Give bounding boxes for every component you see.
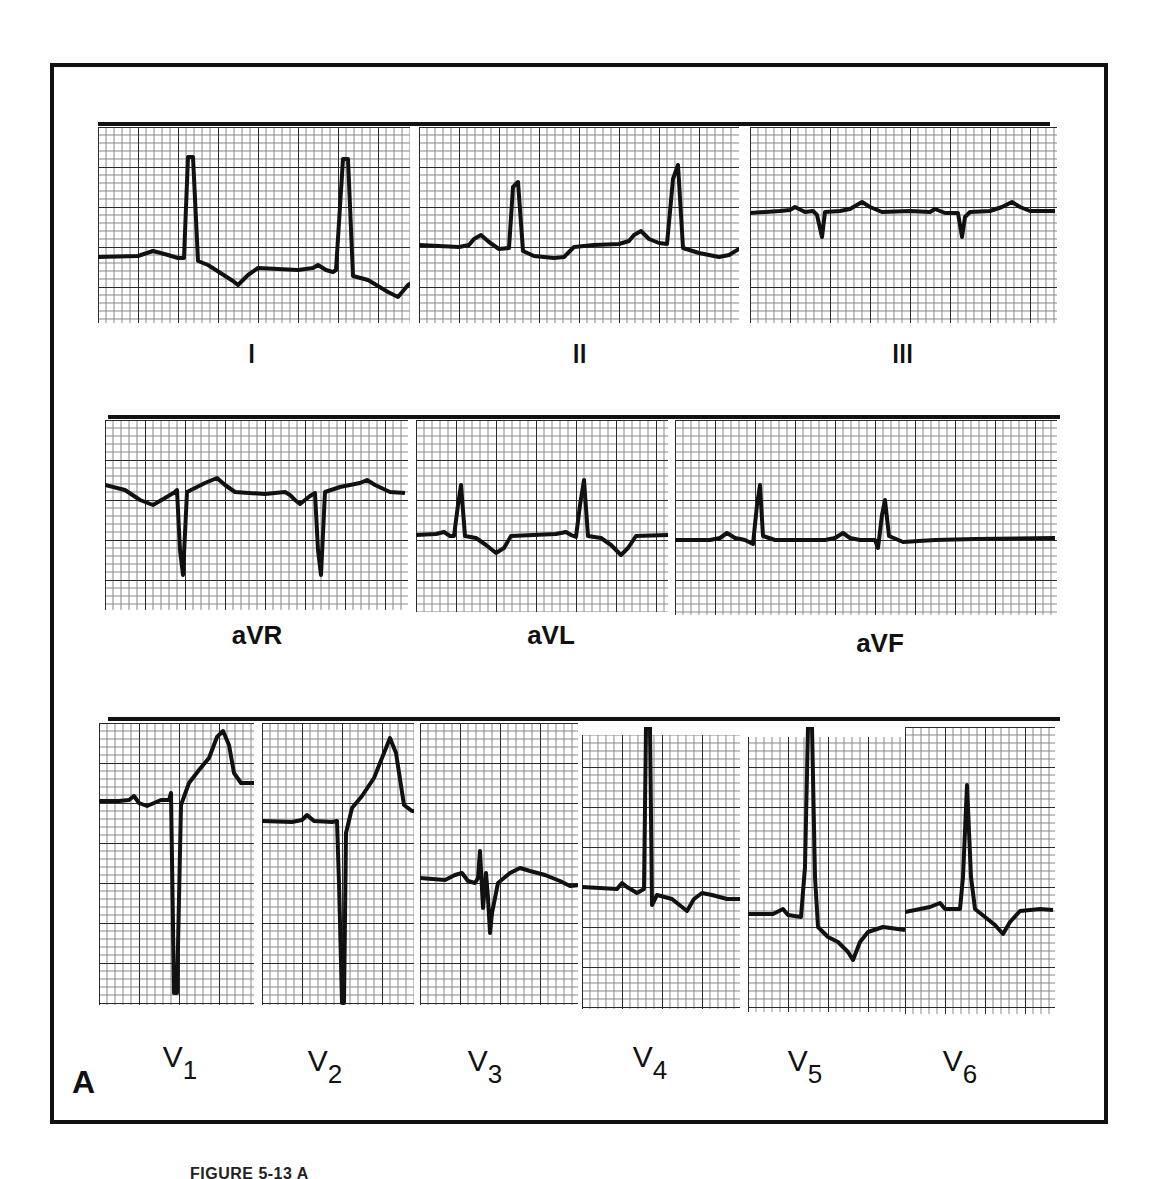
- ecg-trace-V1: [99, 723, 254, 1005]
- ecg-panel-V6: [905, 727, 1055, 1014]
- ecg-panel-aVL: [416, 420, 668, 612]
- ecg-trace-V6: [905, 727, 1055, 1014]
- ecg-trace-V3: [420, 723, 578, 1005]
- ecg-trace-III: [750, 127, 1057, 323]
- lead-label-V5: V5: [788, 1044, 822, 1090]
- lead-label-II: II: [573, 338, 587, 370]
- ecg-panel-III: [750, 127, 1057, 323]
- ecg-panel-V5: [748, 727, 905, 1012]
- lead-label-aVL: aVL: [527, 620, 575, 651]
- lead-label-V4: V4: [633, 1040, 667, 1086]
- ecg-trace-aVF: [675, 420, 1057, 615]
- ecg-trace-I: [98, 127, 410, 323]
- ecg-panel-V2: [262, 723, 414, 1005]
- ecg-trace-aVR: [105, 420, 408, 610]
- figure-caption: FIGURE 5-13 A: [190, 1165, 309, 1179]
- ecg-trace-V4: [582, 727, 740, 1009]
- lead-label-III: III: [892, 338, 913, 370]
- ecg-panel-I: [98, 127, 410, 323]
- row3-top-bar: [108, 717, 1060, 721]
- ecg-panel-aVR: [105, 420, 408, 610]
- lead-label-V6: V6: [943, 1044, 977, 1090]
- lead-label-I: I: [248, 338, 255, 370]
- lead-label-V2: V2: [308, 1044, 342, 1090]
- ecg-panel-V3: [420, 723, 578, 1005]
- lead-label-V3: V3: [468, 1044, 502, 1090]
- row2-top-bar: [108, 415, 1060, 419]
- ecg-trace-V2: [262, 723, 414, 1005]
- ecg-panel-aVF: [675, 420, 1057, 615]
- ecg-panel-II: [419, 127, 739, 323]
- ecg-panel-V4: [582, 727, 740, 1009]
- ecg-panel-V1: [99, 723, 254, 1005]
- panel-letter: A: [72, 1064, 95, 1101]
- ecg-trace-aVL: [416, 420, 668, 612]
- ecg-trace-II: [419, 127, 739, 323]
- lead-label-V1: V1: [163, 1040, 197, 1086]
- ecg-trace-V5: [748, 727, 905, 1012]
- lead-label-aVR: aVR: [232, 620, 283, 651]
- lead-label-aVF: aVF: [856, 628, 904, 659]
- row1-top-bar: [98, 122, 1050, 126]
